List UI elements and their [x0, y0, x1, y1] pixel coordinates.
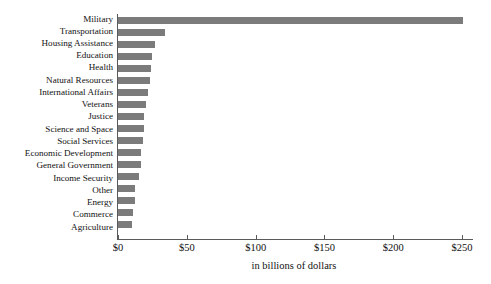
x-tick-label-200: $200: [383, 242, 404, 254]
bar-income-security: [118, 173, 139, 180]
bar-economic-development: [118, 149, 141, 156]
category-label-transportation: Transportation: [0, 26, 113, 36]
category-label-social-services: Social Services: [0, 136, 113, 146]
x-tick-label-100: $100: [245, 242, 266, 254]
category-label-veterans: Veterans: [0, 99, 113, 109]
bar-energy: [118, 197, 135, 204]
x-tick-mark-50: [187, 235, 188, 240]
bar-transportation: [118, 29, 165, 36]
bar-social-services: [118, 137, 143, 144]
category-label-agriculture: Agriculture: [0, 222, 113, 232]
x-tick-label-150: $150: [314, 242, 335, 254]
bar-chart: Military Transportation Housing Assistan…: [0, 0, 491, 284]
category-label-general-government: General Government: [0, 160, 113, 170]
x-tick-mark-100: [256, 235, 257, 240]
x-axis-title: in billions of dollars: [118, 259, 470, 272]
category-label-other: Other: [0, 185, 113, 195]
bar-justice: [118, 113, 144, 120]
bar-agriculture: [118, 221, 132, 228]
x-tick-label-50: $50: [179, 242, 195, 254]
bar-international-affairs: [118, 89, 148, 96]
category-label-health: Health: [0, 62, 113, 72]
category-label-commerce: Commerce: [0, 209, 113, 219]
bar-other: [118, 185, 135, 192]
bar-military: [118, 17, 463, 24]
category-label-economic-development: Economic Development: [0, 148, 113, 158]
x-tick-mark-250: [462, 235, 463, 240]
bar-science-and-space: [118, 125, 144, 132]
category-label-international-affairs: International Affairs: [0, 87, 113, 97]
bar-education: [118, 53, 152, 60]
category-label-housing-assistance: Housing Assistance: [0, 38, 113, 48]
category-label-income-security: Income Security: [0, 173, 113, 183]
bar-health: [118, 65, 151, 72]
bar-commerce: [118, 209, 133, 216]
category-label-science-and-space: Science and Space: [0, 124, 113, 134]
x-tick-label-0: $0: [113, 242, 124, 254]
bar-natural-resources: [118, 77, 150, 84]
category-label-education: Education: [0, 50, 113, 60]
bar-veterans: [118, 101, 146, 108]
bar-general-government: [118, 161, 141, 168]
category-label-military: Military: [0, 14, 113, 24]
bar-housing-assistance: [118, 41, 155, 48]
category-label-justice: Justice: [0, 111, 113, 121]
x-tick-mark-200: [393, 235, 394, 240]
category-label-natural-resources: Natural Resources: [0, 75, 113, 85]
x-axis-line: [117, 239, 473, 240]
y-axis-line: [117, 14, 118, 240]
plot-area: [118, 14, 469, 239]
x-tick-mark-0: [118, 235, 119, 240]
x-tick-mark-150: [324, 235, 325, 240]
category-label-energy: Energy: [0, 197, 113, 207]
x-tick-label-250: $250: [452, 242, 473, 254]
